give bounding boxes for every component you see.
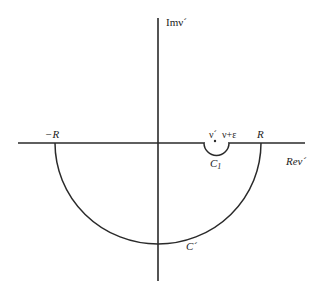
contour-diagram: Imν´ Reν´ −R R ν´ ν+ε C1 C´ (0, 0, 324, 293)
nu-eps-label: ν+ε (222, 129, 236, 140)
neg-r-label: −R (45, 128, 59, 140)
nu-prime-label: ν´ (209, 129, 217, 140)
real-axis-label: Reν´ (285, 155, 306, 167)
pole-point (214, 140, 216, 142)
c1-label: C1 (210, 157, 221, 171)
r-label: R (256, 128, 264, 140)
c-prime-label: C´ (186, 240, 197, 252)
imaginary-axis-label: Imν´ (166, 16, 187, 28)
small-contour-c1 (204, 143, 229, 156)
